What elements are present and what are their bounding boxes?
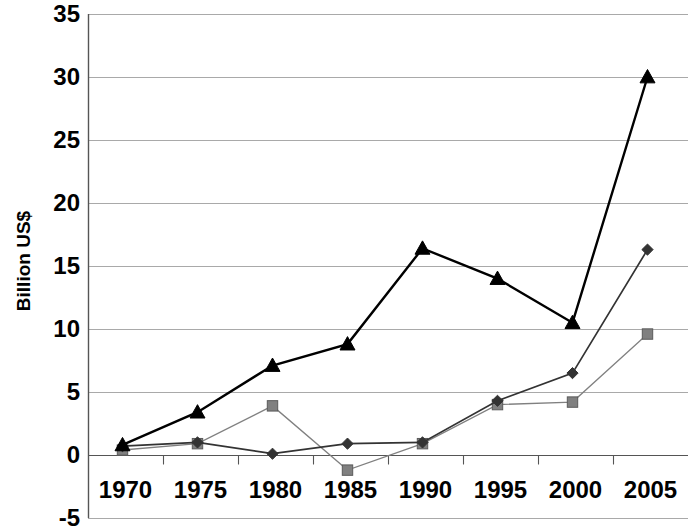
data-point-triangle <box>115 437 130 450</box>
data-point-square <box>342 465 352 475</box>
data-point-diamond <box>342 438 353 449</box>
series-series-3-square <box>117 329 652 475</box>
series-line <box>123 250 648 454</box>
plot-area <box>0 0 688 532</box>
series-series-1-triangle <box>115 70 655 451</box>
data-point-triangle <box>640 70 655 83</box>
series-line <box>123 77 648 445</box>
data-point-square <box>642 329 652 339</box>
data-point-square <box>567 397 577 407</box>
data-point-triangle <box>565 315 580 328</box>
data-point-diamond <box>567 368 578 379</box>
series-series-2-diamond <box>117 244 653 459</box>
data-point-diamond <box>642 244 653 255</box>
data-point-square <box>267 401 277 411</box>
line-chart: Billion US$ 35302520151050-5 19701975198… <box>0 0 688 532</box>
data-point-triangle <box>190 405 205 418</box>
data-point-triangle <box>415 241 430 254</box>
data-point-diamond <box>267 448 278 459</box>
